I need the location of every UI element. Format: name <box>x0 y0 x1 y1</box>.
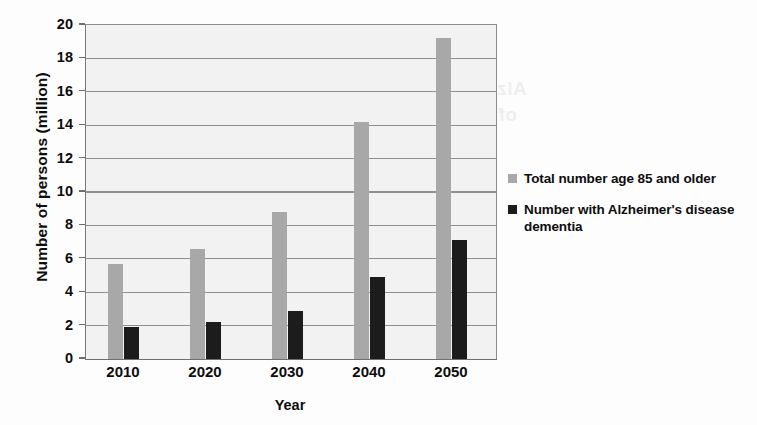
x-axis-title: Year <box>85 397 495 413</box>
y-tick-mark <box>79 357 85 358</box>
plot-area <box>85 24 497 359</box>
y-tick-label: 0 <box>37 350 73 366</box>
bar-2020-total <box>190 249 205 359</box>
y-tick-mark <box>79 90 85 91</box>
y-tick-mark <box>79 23 85 24</box>
chart-figure: Alzheimer's and the sense of timing loss… <box>0 0 757 425</box>
gridline <box>86 58 496 59</box>
bar-2030-alzheimers <box>288 311 303 359</box>
y-tick-label: 20 <box>37 16 73 32</box>
gridline <box>86 258 496 259</box>
bar-2050-alzheimers <box>452 240 467 359</box>
y-tick-label: 4 <box>37 283 73 299</box>
y-tick-label: 12 <box>37 150 73 166</box>
bar-2040-total <box>354 122 369 359</box>
legend-label: Number with Alzheimer's disease dementia <box>524 201 750 235</box>
y-tick-mark <box>79 57 85 58</box>
gridline <box>86 191 496 192</box>
bar-2010-total <box>108 264 123 359</box>
bar-2030-total <box>272 212 287 359</box>
y-tick-mark <box>79 224 85 225</box>
x-tick-label-2030: 2030 <box>252 363 322 380</box>
legend-swatch-total-icon <box>508 174 517 183</box>
legend-swatch-alz-icon <box>508 205 517 214</box>
y-tick-label: 8 <box>37 216 73 232</box>
bar-2040-alzheimers <box>370 277 385 359</box>
y-tick-label: 14 <box>37 116 73 132</box>
y-tick-mark <box>79 291 85 292</box>
bar-2010-alzheimers <box>124 327 139 359</box>
y-tick-label: 6 <box>37 250 73 266</box>
y-tick-label: 10 <box>37 183 73 199</box>
gridline <box>86 125 496 126</box>
y-tick-mark <box>79 324 85 325</box>
y-tick-label: 16 <box>37 83 73 99</box>
y-tick-mark <box>79 157 85 158</box>
gridline <box>86 158 496 159</box>
bar-2020-alzheimers <box>206 322 221 359</box>
bar-2050-total <box>436 38 451 359</box>
chart-legend: Total number age 85 and olderNumber with… <box>508 170 750 249</box>
y-tick-mark <box>79 190 85 191</box>
y-tick-label: 18 <box>37 49 73 65</box>
gridline <box>86 91 496 92</box>
gridline <box>86 225 496 226</box>
x-tick-label-2050: 2050 <box>416 363 486 380</box>
gridline <box>86 292 496 293</box>
y-tick-label: 2 <box>37 317 73 333</box>
legend-label: Total number age 85 and older <box>524 170 716 187</box>
x-tick-label-2040: 2040 <box>334 363 404 380</box>
legend-item-alz[interactable]: Number with Alzheimer's disease dementia <box>508 201 750 235</box>
y-tick-mark <box>79 257 85 258</box>
x-tick-label-2020: 2020 <box>170 363 240 380</box>
legend-item-total[interactable]: Total number age 85 and older <box>508 170 750 187</box>
x-tick-label-2010: 2010 <box>88 363 158 380</box>
y-tick-mark <box>79 124 85 125</box>
